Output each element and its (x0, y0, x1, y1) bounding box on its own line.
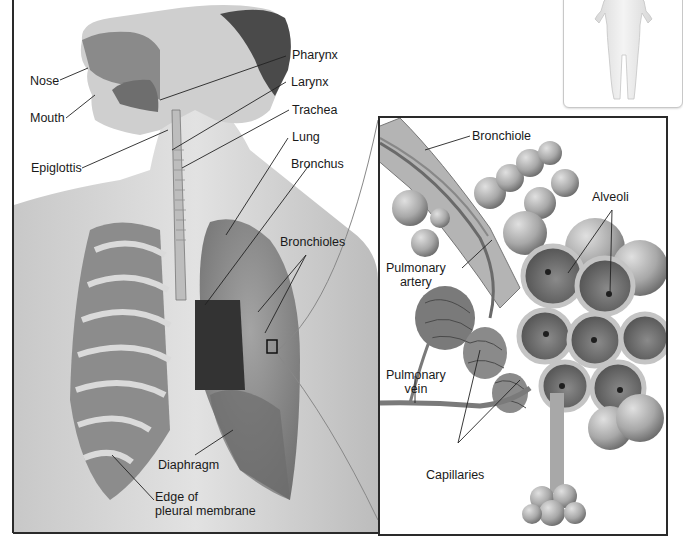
label-pleural-line1: Edge of (155, 490, 256, 504)
label-capillaries: Capillaries (426, 468, 484, 482)
label-pharynx: Pharynx (292, 48, 338, 62)
label-pleural-membrane: Edge of pleural membrane (155, 490, 256, 518)
label-bronchioles: Bronchioles (280, 235, 345, 249)
label-bronchus: Bronchus (291, 157, 344, 171)
orientation-thumbnail (563, 0, 683, 108)
label-epiglottis: Epiglottis (31, 161, 82, 175)
label-lung: Lung (292, 130, 320, 144)
label-pulmonary-vein-line1: Pulmonary (386, 368, 446, 382)
label-mouth: Mouth (30, 111, 65, 125)
label-alveoli: Alveoli (592, 190, 629, 204)
label-pleural-line2: pleural membrane (155, 504, 256, 518)
main-anatomy-panel: Nose Mouth Epiglottis Pharynx Larynx Tra… (0, 0, 380, 546)
alveoli-inset-panel: Bronchiole Alveoli Pulmonary artery Pulm… (378, 116, 668, 536)
label-diaphragm: Diaphragm (158, 458, 219, 472)
label-pulmonary-vein: Pulmonary vein (386, 368, 446, 396)
label-pulmonary-artery-line1: Pulmonary (386, 261, 446, 275)
label-nose: Nose (30, 74, 59, 88)
body-silhouette-icon (564, 0, 682, 107)
label-pulmonary-artery: Pulmonary artery (386, 261, 446, 289)
label-larynx: Larynx (291, 75, 329, 89)
label-pulmonary-artery-line2: artery (386, 275, 446, 289)
label-bronchiole: Bronchiole (472, 129, 531, 143)
label-trachea: Trachea (292, 103, 337, 117)
label-pulmonary-vein-line2: vein (386, 382, 446, 396)
